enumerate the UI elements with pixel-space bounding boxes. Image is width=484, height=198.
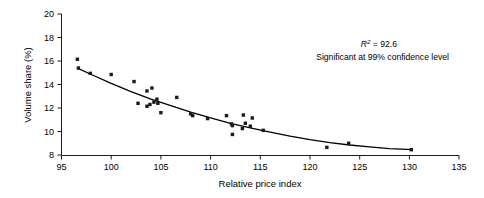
x-tick-label: 130: [402, 162, 417, 172]
data-point: [77, 66, 80, 69]
data-point: [244, 122, 247, 125]
data-point: [76, 58, 79, 61]
x-tick-label: 120: [302, 162, 317, 172]
x-tick-label: 105: [153, 162, 168, 172]
y-tick-label: 12: [44, 103, 54, 113]
data-point: [325, 146, 328, 149]
y-tick-label: 8: [49, 150, 54, 160]
data-point: [145, 89, 148, 92]
x-tick-label: 110: [203, 162, 217, 172]
x-tick-label: 125: [352, 162, 367, 172]
data-point-group: [76, 58, 413, 152]
significance-annotation: Significant at 99% confidence level: [316, 52, 449, 62]
data-point: [156, 102, 159, 105]
data-point: [148, 103, 151, 106]
data-point: [225, 114, 228, 117]
data-point: [262, 129, 265, 132]
data-point: [410, 148, 413, 151]
data-point: [136, 102, 139, 105]
data-point: [347, 142, 350, 145]
y-axis-ticks: [58, 14, 62, 155]
r-squared-annotation: R2 = 92.6: [361, 38, 397, 50]
data-point: [241, 127, 244, 130]
data-point: [251, 116, 254, 119]
data-point: [150, 86, 153, 89]
chart-container: 8 10 12 14 16 18 20 95 100 105 110 115: [0, 0, 484, 198]
y-tick-label: 10: [44, 127, 54, 137]
data-point: [191, 114, 194, 117]
x-axis-tick-labels: 95 100 105 110 115 120 125 130 135: [56, 162, 466, 172]
x-axis-title: Relative price index: [219, 178, 302, 189]
data-point: [109, 73, 112, 76]
data-point: [155, 97, 158, 100]
x-axis-ticks: [62, 156, 460, 160]
y-tick-label: 14: [44, 80, 54, 90]
data-point: [206, 117, 209, 120]
data-point: [249, 125, 252, 128]
data-point: [242, 113, 245, 116]
x-tick-label: 95: [56, 162, 66, 172]
data-point: [159, 111, 162, 114]
data-point: [132, 80, 135, 83]
y-axis-tick-labels: 8 10 12 14 16 18 20: [44, 9, 54, 160]
annotation-block: R2 = 92.6 Significant at 99% confidence …: [316, 38, 449, 63]
r-squared-value: = 92.6: [370, 39, 397, 49]
y-axis-title: Volume share (%): [22, 47, 33, 123]
y-tick-label: 18: [44, 33, 54, 43]
data-point: [231, 133, 234, 136]
x-tick-label: 115: [253, 162, 267, 172]
x-tick-label: 100: [104, 162, 119, 172]
y-tick-label: 16: [44, 56, 54, 66]
data-point: [152, 100, 155, 103]
data-point: [175, 96, 178, 99]
y-tick-label: 20: [44, 9, 54, 19]
fit-curve: [77, 68, 412, 150]
data-point: [145, 105, 148, 108]
scatter-chart: 8 10 12 14 16 18 20 95 100 105 110 115: [0, 0, 484, 198]
data-point: [89, 72, 92, 75]
x-tick-label: 135: [451, 162, 466, 172]
data-point: [231, 124, 234, 127]
